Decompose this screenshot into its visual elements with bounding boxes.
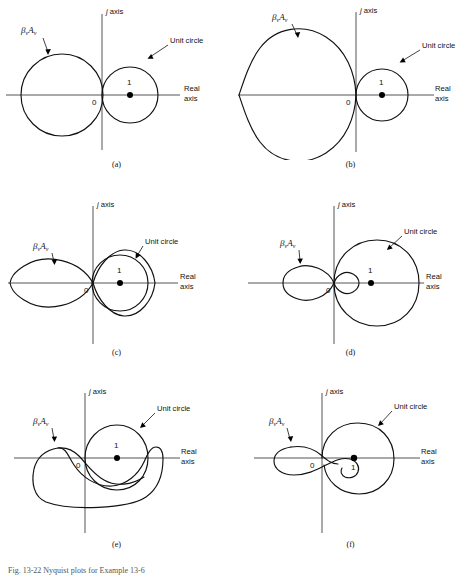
beta-av-label-c: βvAv <box>32 241 49 252</box>
unit-circle-label-c: Unit circle <box>145 237 178 246</box>
point-one-marker-e <box>114 455 120 461</box>
point-one-label-f: 1 <box>351 463 356 472</box>
origin-label-d: 0 <box>326 286 331 295</box>
unit-circle-label-a: Unit circle <box>170 36 203 45</box>
real-axis-label-line1-b: Real <box>435 84 451 93</box>
panel-e: βvAv Unit circle j axis Real axis 0 1 (e… <box>0 385 233 575</box>
unit-circle-leader-e <box>142 413 155 426</box>
beta-av-arrow-a <box>45 49 51 55</box>
panel-tag-c: (c) <box>0 348 233 357</box>
real-axis-label-line2-b: axis <box>435 94 449 103</box>
real-axis-label-line1-a: Real <box>184 84 200 93</box>
point-one-label-d: 1 <box>368 266 373 275</box>
j-axis-label-a: j axis <box>105 7 124 16</box>
point-one-label-a: 1 <box>127 78 132 87</box>
origin-label-f: 0 <box>310 461 315 470</box>
j-axis-label-d: j axis <box>337 200 356 209</box>
panel-tag-b: (b) <box>234 160 467 169</box>
unit-circle-label-b: Unit circle <box>422 41 455 50</box>
point-one-label-b: 1 <box>379 78 384 87</box>
panel-c: βvAv Unit circle j axis Real axis 0 1 (c… <box>0 196 233 386</box>
real-axis-label-line1-f: Real <box>421 447 437 456</box>
origin-label-e: 0 <box>76 461 81 470</box>
figure-caption: Fig. 13-22 Nyquist plots for Example 13-… <box>8 566 460 576</box>
real-axis-label-line2-a: axis <box>184 94 198 103</box>
beta-av-label-b: βvAv <box>271 12 288 23</box>
real-axis-label-line2-c: axis <box>180 282 194 291</box>
beta-av-arrow-d <box>297 259 303 265</box>
real-axis-label-line2-d: axis <box>426 282 440 291</box>
point-one-marker-c <box>117 280 123 286</box>
real-axis-label-line1-d: Real <box>426 272 442 281</box>
unit-circle-label-e: Unit circle <box>157 404 190 413</box>
panel-b: βvAv Unit circle j axis Real axis 0 1 (b… <box>234 0 467 190</box>
real-axis-label-line2-e: axis <box>181 457 195 466</box>
beta-av-arrow-f <box>288 436 294 442</box>
beta-av-label-f: βvAv <box>268 416 285 427</box>
unit-circle-leader-a <box>150 45 168 57</box>
point-one-label-c: 1 <box>117 266 122 275</box>
panel-d: βvAv Unit circle j axis Real axis 0 1 (d… <box>234 196 467 386</box>
beta-av-arrow-c <box>52 259 58 265</box>
j-axis-label-e: j axis <box>88 387 107 396</box>
panel-tag-a: (a) <box>0 160 233 169</box>
unit-circle-arrow-b <box>400 58 406 63</box>
panel-tag-e: (e) <box>0 540 233 549</box>
unit-circle-arrow-a <box>148 54 154 59</box>
origin-label-b: 0 <box>346 98 351 107</box>
unit-circle-leader-b <box>402 50 420 61</box>
real-axis-label-line1-e: Real <box>181 447 197 456</box>
point-one-marker-d <box>368 280 374 286</box>
point-one-marker-b <box>379 92 385 98</box>
beta-av-spiral-mid-f <box>291 446 338 464</box>
panel-f: βvAv Unit circle j axis Real axis 0 1 (f… <box>234 385 467 575</box>
origin-label-c: 0 <box>84 286 89 295</box>
panel-tag-f: (f) <box>234 540 467 549</box>
real-axis-label-line2-f: axis <box>421 457 435 466</box>
beta-av-arrow-e <box>52 436 58 442</box>
real-axis-label-line1-c: Real <box>180 272 196 281</box>
beta-av-label-a: βvAv <box>20 25 37 36</box>
j-axis-label-b: j axis <box>359 6 378 15</box>
unit-circle-label-d: Unit circle <box>404 227 437 236</box>
beta-av-arrow-b <box>295 32 300 38</box>
beta-av-label-e: βvAv <box>32 416 49 427</box>
point-one-label-e: 1 <box>114 441 119 450</box>
j-axis-label-c: j axis <box>96 200 115 209</box>
beta-av-label-d: βvAv <box>279 238 296 249</box>
beta-av-curve-b <box>239 29 356 160</box>
panel-a: βvAv Unit circle j axis Real axis 0 1 (a… <box>0 0 233 190</box>
point-one-marker-f <box>351 455 357 461</box>
figure-container: βvAv Unit circle j axis Real axis 0 1 (a… <box>0 0 467 576</box>
j-axis-label-f: j axis <box>325 387 344 396</box>
panel-tag-d: (d) <box>234 348 467 357</box>
unit-circle-label-f: Unit circle <box>394 402 427 411</box>
point-one-marker-a <box>127 92 133 98</box>
origin-label-a: 0 <box>92 98 97 107</box>
